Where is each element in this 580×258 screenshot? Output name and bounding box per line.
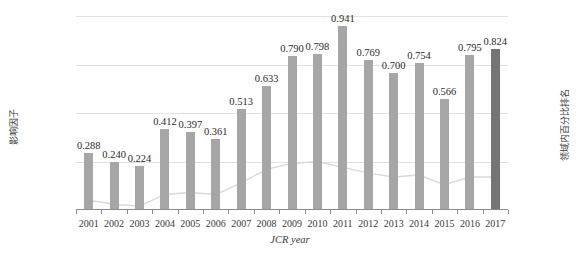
x-axis-tick-label: 2003 (130, 218, 150, 229)
bar-value-label: 0.795 (458, 42, 482, 53)
bar (211, 139, 220, 209)
x-axis-tick-label: 2015 (434, 218, 454, 229)
x-axis-tick-mark (432, 210, 433, 214)
x-axis-tick-label: 2016 (460, 218, 480, 229)
bar-value-label: 0.361 (204, 126, 228, 137)
x-axis-tick-mark (483, 210, 484, 214)
x-axis-line (76, 209, 508, 210)
x-axis-tick-label: 2014 (409, 218, 429, 229)
gridline (76, 16, 508, 17)
bar (110, 162, 119, 209)
bar-value-label: 0.397 (179, 119, 203, 130)
x-axis-tick-mark (254, 210, 255, 214)
bar-value-label: 0.824 (483, 36, 507, 47)
x-axis-tick-mark (101, 210, 102, 214)
bar (313, 54, 322, 209)
bar-value-label: 0.240 (102, 149, 126, 160)
x-axis-tick-mark (508, 210, 509, 214)
x-axis-tick-mark (305, 210, 306, 214)
bar (288, 56, 297, 209)
x-axis-tick-label: 2007 (231, 218, 251, 229)
x-axis-tick-label: 2006 (206, 218, 226, 229)
bar (237, 109, 246, 209)
x-axis-tick-mark (330, 210, 331, 214)
bar-value-label: 0.224 (128, 153, 152, 164)
bar (389, 73, 398, 209)
bar (135, 166, 144, 209)
bar-value-label: 0.941 (331, 13, 355, 24)
bar (186, 132, 195, 209)
x-axis-tick-label: 2005 (180, 218, 200, 229)
x-axis-tick-label: 2010 (307, 218, 327, 229)
x-axis-tick-label: 2009 (282, 218, 302, 229)
x-axis-tick-label: 2002 (104, 218, 124, 229)
x-axis-tick-label: 2001 (79, 218, 99, 229)
bar-value-label: 0.798 (306, 41, 330, 52)
bar-value-label: 0.769 (356, 47, 380, 58)
bar-value-label: 0.754 (407, 50, 431, 61)
secondary-y-axis-title: 领域内百分比排名 (558, 80, 571, 170)
x-axis-tick-label: 2012 (358, 218, 378, 229)
x-axis-tick-mark (178, 210, 179, 214)
x-axis-tick-mark (228, 210, 229, 214)
x-axis-tick-mark (406, 210, 407, 214)
bar (364, 60, 373, 209)
impact-factor-chart: 影响因子 领域内百分比排名 JCR year 0.0000.2500.5000.… (0, 0, 580, 258)
bar-value-label: 0.513 (229, 96, 253, 107)
x-axis-tick-label: 2004 (155, 218, 175, 229)
bar (440, 99, 449, 209)
x-axis-tick-mark (152, 210, 153, 214)
bar (160, 129, 169, 209)
y-axis-title: 影响因子 (7, 92, 20, 162)
bar-value-label: 0.566 (433, 86, 457, 97)
bar (465, 55, 474, 209)
x-axis-tick-mark (203, 210, 204, 214)
x-axis-tick-mark (76, 210, 77, 214)
x-axis-tick-label: 2011 (333, 218, 353, 229)
x-axis-tick-mark (381, 210, 382, 214)
bar-value-label: 0.288 (77, 140, 101, 151)
x-axis-tick-mark (279, 210, 280, 214)
bar-value-label: 0.790 (280, 43, 304, 54)
bar (338, 26, 347, 209)
x-axis-tick-mark (356, 210, 357, 214)
bar (262, 86, 271, 209)
bar (491, 49, 500, 209)
x-axis-tick-mark (457, 210, 458, 214)
bar (415, 63, 424, 209)
bar-value-label: 0.633 (255, 73, 279, 84)
bar (84, 153, 93, 209)
x-axis-tick-label: 2017 (485, 218, 505, 229)
bar-value-label: 0.700 (382, 60, 406, 71)
bar-value-label: 0.412 (153, 116, 177, 127)
x-axis-tick-label: 2013 (384, 218, 404, 229)
x-axis-title: JCR year (0, 234, 580, 245)
x-axis-tick-mark (127, 210, 128, 214)
plot-area: 0.0000.2500.5000.7501.000 0%25%50%75%100… (76, 16, 508, 210)
x-axis-tick-label: 2008 (257, 218, 277, 229)
